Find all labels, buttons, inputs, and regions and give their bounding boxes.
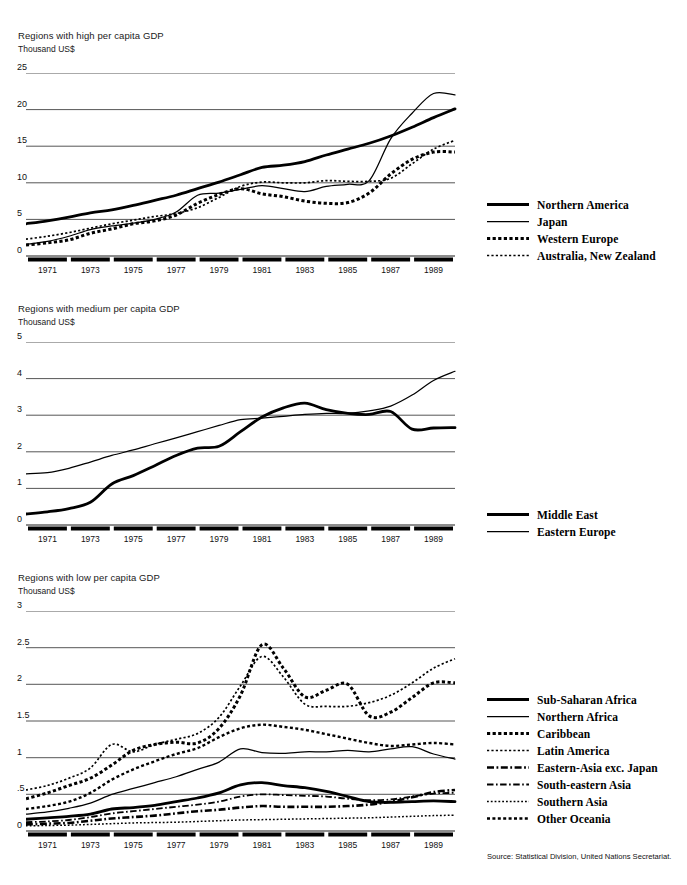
legend-item-south-eastern-asia[interactable]: South-eastern Asia [487, 776, 658, 793]
legend-item-latin-america[interactable]: Latin America [487, 742, 658, 759]
y-tick-label: 0 [17, 245, 22, 255]
y-tick-label: 10 [17, 172, 27, 182]
legend-label: Eastern Europe [537, 526, 616, 538]
y-tick-label: 2.5 [17, 637, 30, 647]
x-tick-label: 1979 [199, 840, 239, 850]
legend-medium: Middle EastEastern Europe [487, 506, 616, 540]
legend-item-eastern-asia-exc-japan[interactable]: Eastern-Asia exc. Japan [487, 759, 658, 776]
x-tick-label: 1983 [285, 840, 325, 850]
legend-line-swatch-icon [487, 694, 529, 705]
x-tick-label: 1979 [199, 534, 239, 544]
legend-line-swatch-icon [487, 199, 529, 210]
x-tick-label: 1987 [371, 265, 411, 275]
legend-item-japan[interactable]: Japan [487, 213, 656, 230]
y-tick-label: 25 [17, 62, 27, 72]
plot-area-low [26, 611, 457, 847]
x-tick-label: 1987 [371, 534, 411, 544]
x-tick-label: 1985 [328, 534, 368, 544]
x-tick-label: 1985 [328, 265, 368, 275]
y-tick-label: 1 [17, 747, 22, 757]
legend-item-other-oceania[interactable]: Other Oceania [487, 810, 658, 827]
legend-item-northern-america[interactable]: Northern America [487, 196, 656, 213]
legend-label: Northern Africa [537, 711, 618, 723]
legend-high: Northern AmericaJapanWestern EuropeAustr… [487, 196, 656, 264]
x-tick-label: 1989 [414, 534, 454, 544]
y-tick-label: 0 [17, 514, 22, 524]
plot-area-high [26, 73, 457, 272]
y-tick-label: 15 [17, 135, 27, 145]
legend-line-swatch-icon [487, 233, 529, 244]
x-tick-label: 1983 [285, 265, 325, 275]
y-tick-label: 1 [17, 477, 22, 487]
x-tick-label: 1981 [242, 840, 282, 850]
legend-label: Southern Asia [537, 796, 608, 808]
chart-title-low: Regions with low per capita GDP [18, 572, 160, 583]
chart-unit-high: Thousand US$ [18, 44, 75, 54]
source-note: Source: Statistical Division, United Nat… [487, 852, 671, 861]
x-tick-label: 1977 [156, 534, 196, 544]
y-tick-label: 5 [17, 208, 22, 218]
legend-item-middle-east[interactable]: Middle East [487, 506, 616, 523]
legend-item-eastern-europe[interactable]: Eastern Europe [487, 523, 616, 540]
y-tick-label: 5 [17, 331, 22, 341]
x-tick-label: 1973 [70, 265, 110, 275]
legend-label: Sub-Saharan Africa [537, 694, 637, 706]
x-tick-label: 1987 [371, 840, 411, 850]
y-tick-label: 2 [17, 673, 22, 683]
x-tick-label: 1989 [414, 840, 454, 850]
legend-item-western-europe[interactable]: Western Europe [487, 230, 656, 247]
legend-item-southern-asia[interactable]: Southern Asia [487, 793, 658, 810]
legend-label: Eastern-Asia exc. Japan [537, 762, 658, 774]
legend-line-swatch-icon [487, 762, 529, 773]
x-tick-label: 1975 [113, 265, 153, 275]
x-tick-label: 1973 [70, 840, 110, 850]
x-tick-label: 1973 [70, 534, 110, 544]
x-tick-label: 1975 [113, 840, 153, 850]
legend-label: Northern America [537, 199, 629, 211]
x-tick-label: 1975 [113, 534, 153, 544]
gdp-report-page: Regions with high per capita GDP Thousan… [0, 0, 687, 885]
legend-label: Other Oceania [537, 813, 611, 825]
legend-line-swatch-icon [487, 796, 529, 807]
x-tick-label: 1985 [328, 840, 368, 850]
legend-line-swatch-icon [487, 250, 529, 261]
x-tick-label: 1971 [27, 534, 67, 544]
legend-label: Japan [537, 216, 568, 228]
x-tick-label: 1979 [199, 265, 239, 275]
legend-line-swatch-icon [487, 526, 529, 537]
x-tick-label: 1981 [242, 534, 282, 544]
chart-title-medium: Regions with medium per capita GDP [18, 303, 180, 314]
x-tick-label: 1971 [27, 265, 67, 275]
x-tick-label: 1989 [414, 265, 454, 275]
plot-area-medium [26, 342, 457, 541]
x-tick-label: 1981 [242, 265, 282, 275]
y-tick-label: 3 [17, 600, 22, 610]
x-tick-label: 1983 [285, 534, 325, 544]
legend-item-sub-saharan-africa[interactable]: Sub-Saharan Africa [487, 691, 658, 708]
legend-label: Middle East [537, 509, 598, 521]
y-tick-label: 20 [17, 99, 27, 109]
chart-title-high: Regions with high per capita GDP [18, 30, 164, 41]
legend-item-australia-new-zealand[interactable]: Australia, New Zealand [487, 247, 656, 264]
legend-line-swatch-icon [487, 216, 529, 227]
y-tick-label: .5 [17, 783, 25, 793]
legend-line-swatch-icon [487, 779, 529, 790]
y-tick-label: 3 [17, 404, 22, 414]
legend-line-swatch-icon [487, 509, 529, 520]
legend-label: South-eastern Asia [537, 779, 631, 791]
legend-label: Australia, New Zealand [537, 250, 656, 262]
y-tick-label: 1.5 [17, 710, 30, 720]
x-tick-label: 1971 [27, 840, 67, 850]
y-tick-label: 2 [17, 441, 22, 451]
legend-line-swatch-icon [487, 711, 529, 722]
chart-unit-low: Thousand US$ [18, 586, 75, 596]
legend-item-caribbean[interactable]: Caribbean [487, 725, 658, 742]
legend-label: Latin America [537, 745, 610, 757]
legend-label: Caribbean [537, 728, 590, 740]
legend-line-swatch-icon [487, 745, 529, 756]
x-tick-label: 1977 [156, 265, 196, 275]
legend-label: Western Europe [537, 233, 618, 245]
legend-item-northern-africa[interactable]: Northern Africa [487, 708, 658, 725]
y-tick-label: 4 [17, 368, 22, 378]
x-tick-label: 1977 [156, 840, 196, 850]
